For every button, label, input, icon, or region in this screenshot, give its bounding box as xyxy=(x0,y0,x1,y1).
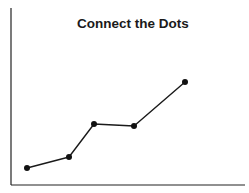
data-line xyxy=(27,82,185,168)
chart-plot-area xyxy=(0,0,249,193)
data-point-4 xyxy=(131,123,137,129)
data-point-2 xyxy=(66,154,72,160)
data-point-3 xyxy=(91,121,97,127)
data-point-5 xyxy=(182,79,188,85)
data-point-1 xyxy=(24,165,30,171)
